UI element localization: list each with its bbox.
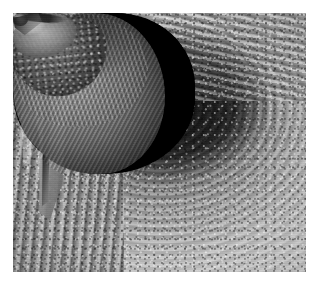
image-canvas (0, 0, 319, 291)
bat-photograph (13, 13, 306, 272)
photo-scan-grain (13, 13, 306, 272)
